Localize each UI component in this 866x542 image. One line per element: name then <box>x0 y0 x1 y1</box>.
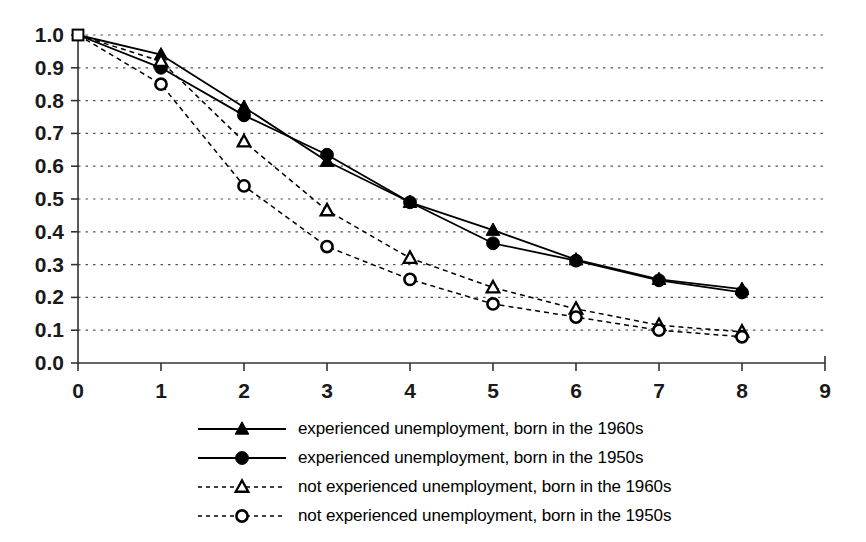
x-tick-label: 7 <box>647 380 671 401</box>
legend-label-2: not experienced unemployment, born in th… <box>288 477 671 497</box>
legend-label-3: not experienced unemployment, born in th… <box>288 506 671 526</box>
y-tick-label: 0.2 <box>8 286 64 307</box>
legend-key-open-circle-icon <box>196 505 288 527</box>
x-tick-label: 5 <box>481 380 505 401</box>
y-tick-label: 0.0 <box>8 352 64 373</box>
legend-label-0: experienced unemployment, born in the 19… <box>288 419 643 439</box>
legend-item-2[interactable]: not experienced unemployment, born in th… <box>196 472 756 501</box>
x-tick-label: 3 <box>315 380 339 401</box>
y-tick-label: 0.3 <box>8 254 64 275</box>
x-tick-label: 9 <box>813 380 837 401</box>
x-tick-label: 6 <box>564 380 588 401</box>
legend-item-1[interactable]: experienced unemployment, born in the 19… <box>196 443 756 472</box>
x-tick-label: 2 <box>232 380 256 401</box>
series-markers <box>73 30 749 343</box>
y-tick-label: 0.6 <box>8 155 64 176</box>
legend-key-filled-circle-icon <box>196 447 288 469</box>
y-tick-label: 0.5 <box>8 188 64 209</box>
x-tick-label: 1 <box>149 380 173 401</box>
y-tick-label: 0.8 <box>8 90 64 111</box>
legend-key-filled-triangle-icon <box>196 418 288 440</box>
x-tick-label: 4 <box>398 380 422 401</box>
legend-key-open-triangle-icon <box>196 476 288 498</box>
legend-item-3[interactable]: not experienced unemployment, born in th… <box>196 501 756 530</box>
axis-ticks <box>71 35 825 371</box>
legend-label-1: experienced unemployment, born in the 19… <box>288 448 643 468</box>
series-lines <box>78 35 742 337</box>
chart-legend: experienced unemployment, born in the 19… <box>196 414 756 530</box>
x-tick-label: 0 <box>66 380 90 401</box>
y-tick-label: 0.1 <box>8 319 64 340</box>
legend-item-0[interactable]: experienced unemployment, born in the 19… <box>196 414 756 443</box>
y-tick-label: 0.4 <box>8 221 64 242</box>
y-tick-label: 0.7 <box>8 122 64 143</box>
chart-container: 1.00.90.80.70.60.50.40.30.20.10.0 012345… <box>0 0 866 542</box>
y-tick-label: 1.0 <box>8 24 64 45</box>
x-tick-label: 8 <box>730 380 754 401</box>
y-tick-label: 0.9 <box>8 57 64 78</box>
